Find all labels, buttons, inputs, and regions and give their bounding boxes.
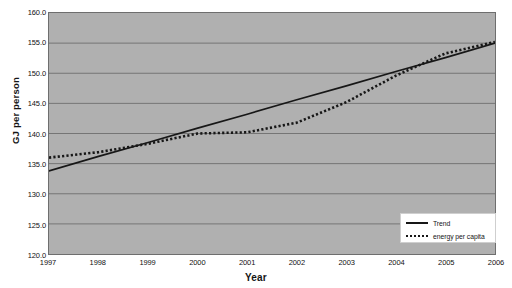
x-axis-tick-label: 2003 <box>327 258 367 267</box>
x-axis-tick-label: 2002 <box>277 258 317 267</box>
chart-title <box>150 0 350 3</box>
x-axis-title: Year <box>0 272 512 283</box>
y-axis-tick-label: 140.0 <box>2 129 46 138</box>
y-axis-tick-label: 145.0 <box>2 99 46 108</box>
y-axis-tick-labels: 160.0155.0150.0145.0140.0135.0130.0125.0… <box>0 12 46 255</box>
series-layer <box>49 42 495 171</box>
dotted-line-icon <box>405 232 429 240</box>
x-axis-tick-label: 2000 <box>177 258 217 267</box>
chart-figure: GJ per person 160.0155.0150.0145.0140.01… <box>0 0 512 288</box>
legend-item: energy per capita <box>405 230 491 242</box>
y-axis-tick-label: 155.0 <box>2 38 46 47</box>
x-axis-tick-label: 2005 <box>426 258 466 267</box>
chart-legend: Trendenergy per capita <box>400 213 496 243</box>
y-axis-tick-label: 135.0 <box>2 159 46 168</box>
x-axis-tick-label: 1997 <box>28 258 68 267</box>
legend-item-label: Trend <box>433 220 450 227</box>
series-line <box>49 42 495 158</box>
x-axis-tick-labels: 1997199819992000200120022003200420052006 <box>48 258 496 272</box>
y-axis-tick-label: 125.0 <box>2 220 46 229</box>
x-axis-tick-label: 1999 <box>128 258 168 267</box>
x-axis-tick-label: 2004 <box>376 258 416 267</box>
x-axis-tick-label: 1998 <box>78 258 118 267</box>
x-axis-tick-label: 2001 <box>227 258 267 267</box>
y-axis-tick-label: 150.0 <box>2 68 46 77</box>
x-axis-tick-label: 2006 <box>476 258 512 267</box>
legend-item-label: energy per capita <box>433 233 485 240</box>
y-axis-tick-label: 160.0 <box>2 8 46 17</box>
gridlines <box>49 43 495 224</box>
solid-line-icon <box>405 219 429 227</box>
y-axis-tick-label: 130.0 <box>2 190 46 199</box>
legend-item: Trend <box>405 217 491 229</box>
